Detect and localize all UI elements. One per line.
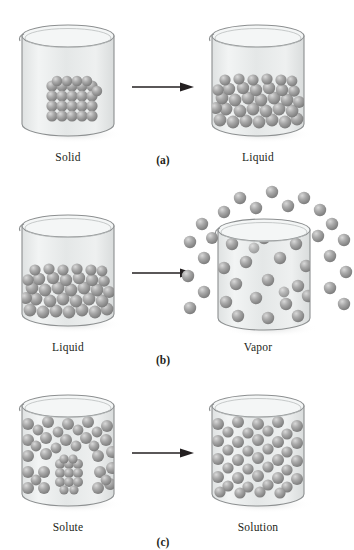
panel-letter-a: (a) — [127, 154, 199, 166]
panel-b: Liquid Vapor (b) — [0, 182, 354, 370]
arrow-dissolution — [130, 446, 196, 460]
beaker-liquid-a — [198, 12, 318, 147]
label-solute: Solute — [8, 521, 128, 533]
panel-a: Solid Liquid (a) — [0, 0, 354, 182]
phase-change-figure: Solid Liquid (a) — [0, 0, 354, 550]
beaker-solute — [8, 382, 128, 517]
beaker-solid — [8, 12, 128, 147]
panel-letter-c: (c) — [127, 536, 199, 548]
label-vapor: Vapor — [198, 341, 318, 353]
panel-letter-b: (b) — [127, 354, 199, 366]
label-solid: Solid — [8, 151, 128, 163]
solid-crystal-lattice — [46, 76, 102, 122]
label-solution: Solution — [198, 521, 318, 533]
beaker-vapor — [180, 184, 354, 344]
liquid-particles — [20, 263, 115, 318]
liquid-particles — [210, 73, 305, 128]
label-liquid-b: Liquid — [8, 341, 128, 353]
beaker-solution — [198, 382, 318, 517]
arrow-melting — [130, 80, 196, 94]
panel-c: Solute Solution (c) — [0, 370, 354, 550]
beaker-liquid-b — [8, 202, 128, 337]
vapor-particles-behind — [218, 186, 326, 218]
label-liquid-a: Liquid — [198, 151, 318, 163]
